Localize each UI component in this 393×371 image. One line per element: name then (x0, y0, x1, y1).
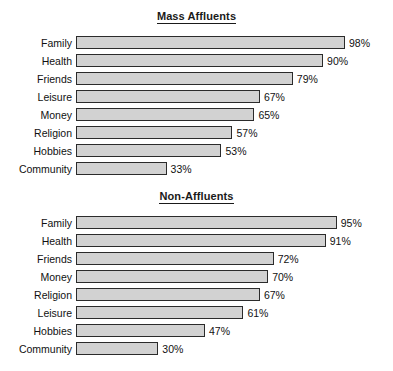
bar-container: 70% (76, 270, 293, 283)
bar-row: Religion57% (0, 124, 393, 142)
bar-value-label: 53% (225, 145, 246, 157)
bar-container: 67% (76, 288, 285, 301)
bar (76, 36, 345, 49)
bar (76, 216, 337, 229)
bar (76, 234, 326, 247)
bar-value-label: 47% (209, 325, 230, 337)
chart-title-text: Mass Affluents (157, 10, 236, 24)
bar-value-label: 90% (327, 55, 348, 67)
bar (76, 90, 260, 103)
bar (76, 144, 221, 157)
bar-value-label: 91% (330, 235, 351, 247)
bar-row: Money70% (0, 268, 393, 286)
bar-value-label: 98% (349, 37, 370, 49)
bar (76, 270, 268, 283)
bar-row: Hobbies47% (0, 322, 393, 340)
bar-container: 33% (76, 162, 192, 175)
bar-row: Friends72% (0, 250, 393, 268)
category-label: Leisure (0, 91, 72, 103)
bar-value-label: 72% (278, 253, 299, 265)
category-label: Money (0, 109, 72, 121)
bar (76, 252, 274, 265)
category-label: Community (0, 163, 72, 175)
category-label: Friends (0, 73, 72, 85)
bar (76, 288, 260, 301)
bar (76, 72, 293, 85)
bar-value-label: 33% (171, 163, 192, 175)
chart-title-text: Non-Affluents (159, 190, 233, 204)
bar (76, 162, 167, 175)
category-label: Religion (0, 289, 72, 301)
bar-rows: Family95%Health91%Friends72%Money70%Reli… (0, 214, 393, 358)
bar (76, 324, 205, 337)
category-label: Health (0, 235, 72, 247)
bar-value-label: 57% (236, 127, 257, 139)
bar-container: 67% (76, 90, 285, 103)
bar-row: Religion67% (0, 286, 393, 304)
chart-title: Non-Affluents (0, 190, 393, 205)
bar-row: Health90% (0, 52, 393, 70)
category-label: Family (0, 37, 72, 49)
bar-container: 47% (76, 324, 230, 337)
bar-value-label: 65% (258, 109, 279, 121)
bar-value-label: 95% (341, 217, 362, 229)
bar-container: 91% (76, 234, 351, 247)
bar-container: 30% (76, 342, 183, 355)
bar (76, 108, 254, 121)
bar-container: 98% (76, 36, 370, 49)
bar-container: 57% (76, 126, 257, 139)
bar (76, 126, 232, 139)
bar-value-label: 67% (264, 91, 285, 103)
bar-row: Money65% (0, 106, 393, 124)
bar-row: Community30% (0, 340, 393, 358)
bar-container: 79% (76, 72, 318, 85)
chart-title: Mass Affluents (0, 10, 393, 25)
bar-container: 72% (76, 252, 299, 265)
category-label: Health (0, 55, 72, 67)
category-label: Family (0, 217, 72, 229)
bar-row: Family98% (0, 34, 393, 52)
category-label: Religion (0, 127, 72, 139)
category-label: Community (0, 343, 72, 355)
category-label: Hobbies (0, 145, 72, 157)
bar-row: Community33% (0, 160, 393, 178)
bar-container: 95% (76, 216, 362, 229)
bar-row: Family95% (0, 214, 393, 232)
bar-container: 61% (76, 306, 268, 319)
bar-value-label: 61% (247, 307, 268, 319)
bar-row: Hobbies53% (0, 142, 393, 160)
bar-value-label: 30% (162, 343, 183, 355)
chart-page: Mass Affluents Family98%Health90%Friends… (0, 0, 393, 371)
bar-rows: Family98%Health90%Friends79%Leisure67%Mo… (0, 34, 393, 178)
category-label: Money (0, 271, 72, 283)
bar-container: 90% (76, 54, 348, 67)
bar-value-label: 79% (297, 73, 318, 85)
category-label: Leisure (0, 307, 72, 319)
chart-mass-affluents: Mass Affluents Family98%Health90%Friends… (0, 10, 393, 178)
category-label: Hobbies (0, 325, 72, 337)
bar-value-label: 67% (264, 289, 285, 301)
bar-value-label: 70% (272, 271, 293, 283)
bar-row: Leisure61% (0, 304, 393, 322)
category-label: Friends (0, 253, 72, 265)
bar-row: Leisure67% (0, 88, 393, 106)
bar-container: 53% (76, 144, 247, 157)
bar (76, 306, 243, 319)
bar-row: Friends79% (0, 70, 393, 88)
bar-container: 65% (76, 108, 279, 121)
bar (76, 342, 158, 355)
bar (76, 54, 323, 67)
bar-row: Health91% (0, 232, 393, 250)
chart-non-affluents: Non-Affluents Family95%Health91%Friends7… (0, 190, 393, 358)
